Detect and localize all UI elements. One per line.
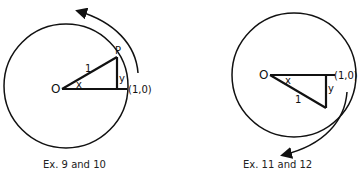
label-opposite-left: y: [119, 73, 125, 84]
diagram-canvas: O 1 x y P (1,0) Ex. 9 and 10 O 1 x y (1,…: [0, 0, 358, 170]
caption-right: Ex. 11 and 12: [243, 159, 312, 170]
label-angle-left: x: [76, 79, 82, 90]
label-hypotenuse-right: 1: [295, 94, 301, 105]
caption-left: Ex. 9 and 10: [43, 159, 106, 170]
figure-right: O 1 x y (1,0) Ex. 11 and 12: [232, 13, 358, 170]
label-angle-right: x: [285, 75, 291, 86]
label-opposite-right: y: [328, 83, 334, 94]
figure-left: O 1 x y P (1,0) Ex. 9 and 10: [4, 11, 152, 170]
label-origin-right: O: [259, 68, 268, 82]
label-point-left: P: [115, 45, 121, 56]
label-point-on-axis-left: (1,0): [128, 84, 152, 95]
label-origin-left: O: [51, 82, 60, 96]
label-point-on-axis-right: (1,0): [334, 70, 358, 81]
label-hypotenuse-left: 1: [85, 63, 91, 74]
